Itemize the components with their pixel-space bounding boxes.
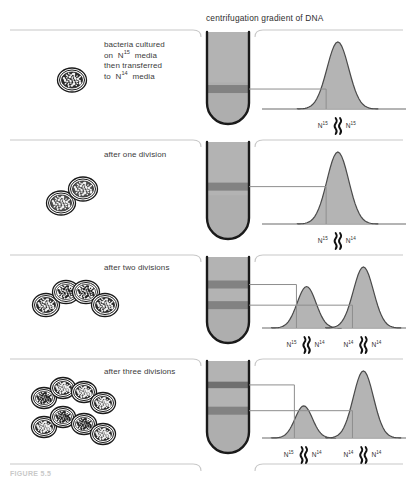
peak-fill-0-0 (297, 42, 378, 109)
dna-helix-icon-3-0 (301, 447, 308, 463)
peak-fill-1-0 (297, 152, 378, 224)
figure-caption: FIGURE 5.5 (10, 470, 51, 477)
isotope-label-right-3-0: N14 (312, 451, 322, 458)
isotope-label-right-3-1: N14 (371, 451, 381, 458)
bacterium-3-3 (91, 393, 116, 414)
isotope-label-right-1-0: N14 (346, 237, 356, 244)
row-label-0: bacteria culturedon N15 mediathen transf… (104, 40, 165, 82)
dna-band-3-1 (207, 407, 249, 415)
centrifuge-tube-2 (207, 257, 249, 343)
bacterium-0-0 (58, 68, 87, 92)
isotope-label-left-3-1: N14 (343, 451, 353, 458)
dna-helix-icon-0-0 (335, 118, 342, 134)
dna-helix-icon-2-1 (360, 337, 367, 353)
band-connector-3-0 (249, 385, 294, 438)
bacterium-3-7 (91, 424, 116, 445)
row-label-3: after three divisions (104, 367, 175, 378)
dna-band-1-0 (207, 183, 249, 191)
isotope-label-left-1-0: N15 (318, 237, 328, 244)
row-label-1: after one division (104, 150, 166, 161)
dna-helix-icon-2-0 (303, 337, 310, 353)
isotope-label-right-2-1: N14 (371, 341, 381, 348)
isotope-label-left-2-1: N14 (343, 341, 353, 348)
dna-band-2-1 (207, 301, 249, 309)
row-label-2: after two divisions (104, 263, 169, 274)
centrifuge-tube-0 (207, 32, 249, 124)
dna-band-3-0 (207, 382, 249, 389)
meselson-stahl-figure: centrifugation gradient of DNA N15N15bac… (0, 0, 413, 483)
peak-fill-3-1 (326, 371, 402, 438)
peak-fill-2-1 (326, 267, 402, 328)
centrifuge-tube-1 (207, 142, 249, 239)
row-divider-bottom (10, 464, 403, 471)
isotope-label-left-0-0: N15 (318, 122, 328, 129)
isotope-label-right-0-0: N15 (346, 122, 356, 129)
dna-helix-icon-3-1 (360, 447, 367, 463)
isotope-label-right-2-0: N14 (315, 341, 325, 348)
centrifuge-tube-3 (207, 361, 249, 453)
dna-band-2-0 (207, 281, 249, 289)
bacterium-2-3 (92, 294, 119, 317)
isotope-label-left-2-0: N15 (287, 341, 297, 348)
peak-fill-2-0 (272, 287, 342, 328)
isotope-label-left-3-0: N15 (284, 451, 294, 458)
dna-helix-icon-1-0 (335, 233, 342, 249)
bacterium-1-1 (69, 177, 98, 201)
dna-band-0-0 (207, 85, 249, 93)
